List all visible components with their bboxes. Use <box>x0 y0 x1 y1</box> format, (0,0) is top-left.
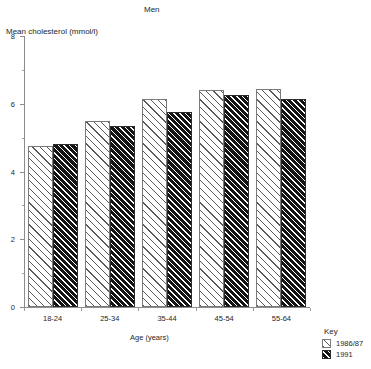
chart-title: Men <box>144 5 160 14</box>
x-tick-35-44 <box>138 308 139 311</box>
x-tick-label-18-24: 18-24 <box>43 314 62 323</box>
legend-swatch-1991 <box>322 350 331 359</box>
y-tick-2: 2 <box>20 239 24 240</box>
x-axis-title: Age (years) <box>130 333 169 342</box>
y-tick-label-4: 4 <box>11 168 15 176</box>
x-tick-label-25-34: 25-34 <box>100 314 119 323</box>
legend-label-1991: 1991 <box>336 350 353 359</box>
bar-55-64-1991 <box>281 99 306 307</box>
y-minor-tick-1 <box>22 273 24 274</box>
legend-label-1986/87: 1986/87 <box>336 339 363 348</box>
x-tick-55-64 <box>253 308 254 311</box>
y-tick-8: 8 <box>20 36 24 37</box>
bar-18-24-1986/87 <box>28 146 53 307</box>
bar-45-54-1991 <box>224 95 249 307</box>
x-tick-18-24 <box>24 308 25 311</box>
y-minor-tick-3 <box>22 205 24 206</box>
x-axis-line <box>24 307 310 308</box>
y-tick-label-0: 0 <box>11 304 15 312</box>
legend-swatch-1986/87 <box>322 339 331 348</box>
x-tick-end <box>310 308 311 311</box>
legend-title: Key <box>324 327 371 336</box>
y-axis-line <box>24 36 25 308</box>
x-tick-25-34 <box>81 308 82 311</box>
plot-area: 02468 18-2425-3435-4445-5455-64 <box>24 36 310 308</box>
y-tick-6: 6 <box>20 104 24 105</box>
legend-entry-1991: 1991 <box>322 350 371 359</box>
y-minor-tick-5 <box>22 138 24 139</box>
bar-55-64-1986/87 <box>256 89 281 307</box>
y-tick-label-6: 6 <box>11 100 15 108</box>
x-tick-label-45-54: 45-54 <box>215 314 234 323</box>
legend: Key 1986/871991 <box>322 327 371 361</box>
y-tick-4: 4 <box>20 172 24 173</box>
legend-entries: 1986/871991 <box>322 339 371 359</box>
bar-18-24-1991 <box>53 144 78 307</box>
y-axis-title: Mean cholesterol (mmol/l) <box>6 27 98 36</box>
x-tick-label-35-44: 35-44 <box>157 314 176 323</box>
x-tick-45-54 <box>196 308 197 311</box>
y-tick-label-2: 2 <box>11 236 15 244</box>
x-tick-label-55-64: 55-64 <box>272 314 291 323</box>
legend-entry-1986/87: 1986/87 <box>322 339 371 348</box>
bar-25-34-1991 <box>110 126 135 307</box>
y-tick-label-8: 8 <box>11 33 15 41</box>
bar-25-34-1986/87 <box>85 121 110 307</box>
y-minor-tick-7 <box>22 70 24 71</box>
bar-35-44-1991 <box>167 112 192 307</box>
bar-35-44-1986/87 <box>142 99 167 307</box>
bar-45-54-1986/87 <box>199 90 224 307</box>
